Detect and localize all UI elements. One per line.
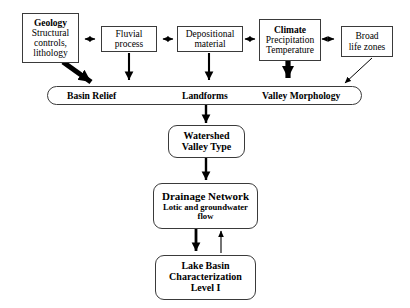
node-fluvial-process[interactable]: Fluvial process (101, 26, 157, 52)
connector-geology-basinrelief (63, 62, 91, 82)
node-climate-heading: Climate (274, 25, 306, 35)
node-lake-basin-characterization[interactable]: Lake Basin Characterization Level I (155, 255, 256, 300)
node-fluvial-line1: Fluvial (116, 29, 143, 39)
node-lifezones-line2: life zones (349, 42, 386, 52)
node-landscape-attributes-bar[interactable]: Basin Relief Landforms Valley Morphology (47, 86, 362, 105)
node-climate-line1: Precipitation (266, 35, 315, 45)
bar-label-basin-relief: Basin Relief (67, 90, 116, 100)
node-depositional-material[interactable]: Depositional material (177, 26, 243, 52)
node-fluvial-line2: process (115, 39, 144, 49)
bar-label-landforms: Landforms (182, 90, 228, 100)
bar-label-valley-morphology: Valley Morphology (262, 90, 340, 100)
node-geology-line3: lithology (33, 48, 67, 58)
node-climate-line2: Temperature (266, 45, 314, 55)
node-watershed-line1: Watershed (183, 131, 229, 142)
node-geology[interactable]: Geology Structural controls, lithology (22, 13, 79, 63)
node-lifezones-line1: Broad (355, 31, 378, 41)
flow-diagram: Geology Structural controls, lithology F… (0, 0, 410, 308)
node-geology-heading: Geology (34, 18, 67, 28)
node-lakebasin-line3: Level I (191, 283, 221, 294)
node-drainage-network[interactable]: Drainage Network Lotic and groundwater f… (153, 183, 258, 229)
node-drainage-line2: flow (198, 212, 214, 221)
node-geology-line2: controls, (34, 38, 67, 48)
node-depositional-line1: Depositional (186, 29, 235, 39)
node-climate[interactable]: Climate Precipitation Temperature (259, 19, 321, 61)
node-watershed-valley-type[interactable]: Watershed Valley Type (168, 125, 245, 158)
node-geology-line1: Structural (32, 28, 69, 38)
node-drainage-heading: Drainage Network (162, 191, 249, 203)
node-broad-life-zones[interactable]: Broad life zones (341, 26, 393, 57)
node-depositional-line2: material (194, 39, 225, 49)
node-watershed-line2: Valley Type (182, 142, 232, 153)
connector-lifezones-bar (345, 58, 372, 83)
